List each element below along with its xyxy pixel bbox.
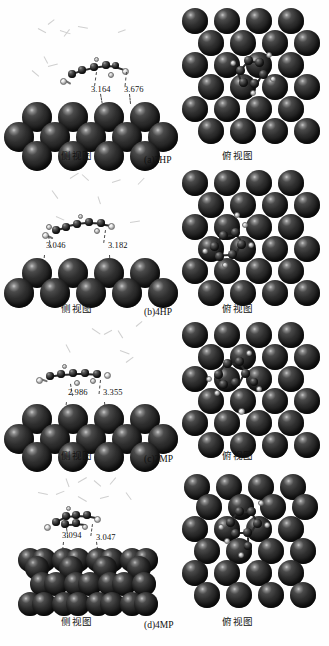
distance-label-1: 2.986 xyxy=(68,387,88,397)
top-view-2mp: 俯视图 xyxy=(178,320,323,472)
panel-2hp: 3.164 3.676 侧视图 xyxy=(0,0,329,168)
side-view-label: 侧视图 xyxy=(61,148,93,162)
side-view-2hp: 3.164 3.676 侧视图 xyxy=(8,0,168,168)
side-view-label: 侧视图 xyxy=(61,448,93,462)
side-view-4hp: 3.046 3.182 侧视图 xyxy=(8,168,168,320)
top-view-label: 俯视图 xyxy=(222,301,254,315)
distance-label-2: 3.047 xyxy=(96,532,116,542)
distance-label-1: 3.046 xyxy=(46,240,66,250)
side-view-2mp: 2.986 3.355 侧视图 xyxy=(8,320,168,472)
top-view-4hp: 俯视图 xyxy=(178,168,323,320)
side-view-label: 侧视图 xyxy=(61,301,93,315)
panel-label-2mp: (c)2MP xyxy=(144,454,173,464)
top-view-2hp: 俯视图 xyxy=(178,0,323,168)
panel-4hp: 3.046 3.182 侧视图 xyxy=(0,168,329,320)
distance-label-2: 3.182 xyxy=(108,240,128,250)
top-view-label: 俯视图 xyxy=(222,448,254,462)
distance-label-1: 3.094 xyxy=(62,530,82,540)
distance-label-2: 3.676 xyxy=(124,84,144,94)
side-view-4mp: 3.094 3.047 xyxy=(8,472,168,632)
cut-off-caption xyxy=(0,637,329,646)
panel-4mp: 3.094 3.047 xyxy=(0,472,329,632)
panel-label-2hp: (a)2HP xyxy=(144,155,171,165)
distance-label-1: 3.164 xyxy=(91,84,111,94)
panel-2mp: 2.986 3.355 侧视图 xyxy=(0,320,329,472)
panel-label-4mp: (d)4MP xyxy=(144,620,174,630)
top-view-4mp: 俯视图 xyxy=(178,472,323,632)
distance-label-2: 3.355 xyxy=(103,387,123,397)
adsorption-configuration-figure: 3.164 3.676 侧视图 xyxy=(0,0,329,646)
top-view-label: 俯视图 xyxy=(222,614,254,628)
top-view-label: 俯视图 xyxy=(222,148,254,162)
panel-label-4hp: (b)4HP xyxy=(144,307,172,317)
side-view-label: 侧视图 xyxy=(61,614,93,628)
